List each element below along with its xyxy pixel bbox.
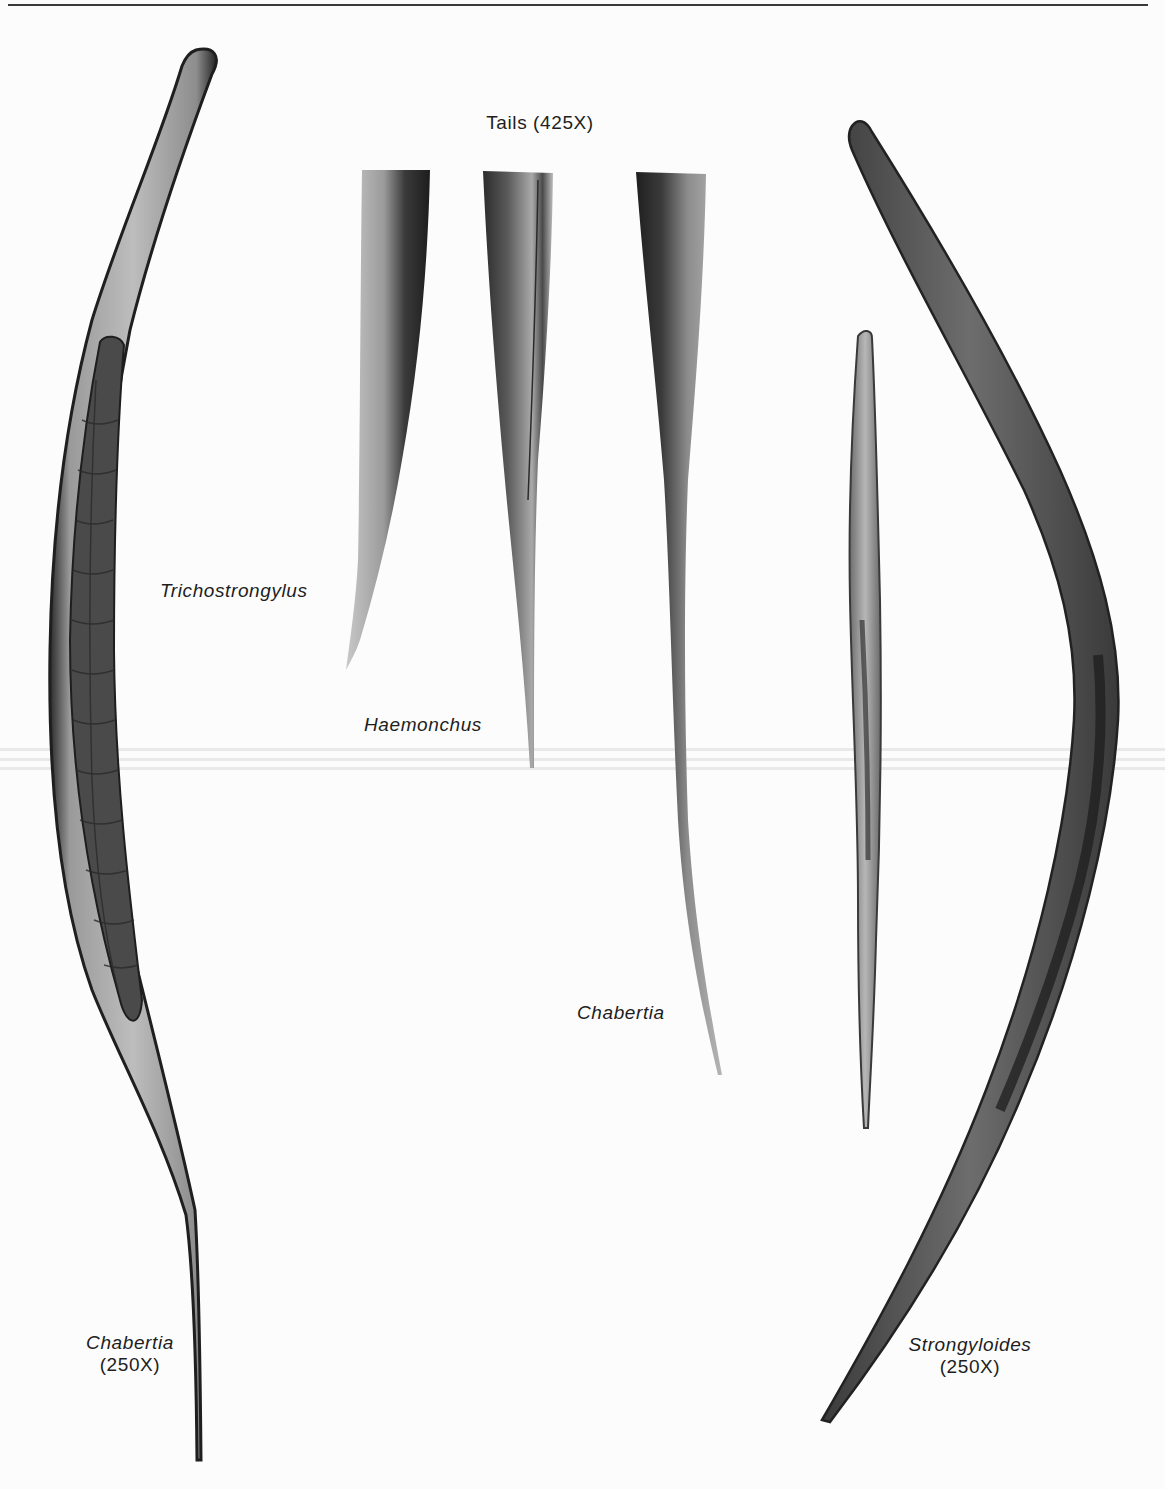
chabertia-magnification: (250X) <box>50 1354 210 1376</box>
chabertia-whole-label: Chabertia (250X) <box>50 1332 210 1376</box>
chabertia-whole-specimen <box>50 49 217 1460</box>
chabertia-tail <box>636 172 722 1075</box>
tails-heading: Tails (425X) <box>440 112 640 134</box>
trichostrongylus-tail <box>346 170 430 670</box>
chabertia-species-name: Chabertia <box>86 1332 174 1353</box>
larva-specimen <box>849 331 880 1128</box>
chabertia-tail-label: Chabertia <box>577 1002 665 1024</box>
strongyloides-whole-label: Strongyloides (250X) <box>870 1334 1070 1378</box>
figure-page: Tails (425X) Trichostrongylus Haemonchus… <box>0 0 1165 1489</box>
strongyloides-magnification: (250X) <box>870 1356 1070 1378</box>
specimen-illustrations <box>0 0 1165 1489</box>
trichostrongylus-label: Trichostrongylus <box>160 580 308 602</box>
haemonchus-label: Haemonchus <box>364 714 482 736</box>
haemonchus-tail <box>483 171 553 768</box>
strongyloides-species-name: Strongyloides <box>909 1334 1032 1355</box>
